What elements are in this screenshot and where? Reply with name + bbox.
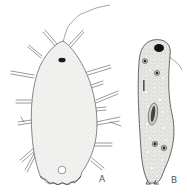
panel-label-a: A bbox=[99, 175, 105, 184]
protozoa-figure: A B bbox=[0, 0, 187, 196]
panel-label-b: B bbox=[171, 176, 177, 185]
flagellum-a bbox=[63, 5, 110, 42]
illustration-svg bbox=[0, 0, 187, 196]
nucleus-a bbox=[58, 58, 65, 63]
organism-a bbox=[11, 5, 121, 184]
nucleus-b bbox=[154, 44, 164, 52]
organism-b bbox=[138, 40, 182, 184]
flagellum-b bbox=[170, 57, 182, 70]
body-a bbox=[31, 41, 97, 184]
vacuole-a bbox=[58, 166, 66, 174]
